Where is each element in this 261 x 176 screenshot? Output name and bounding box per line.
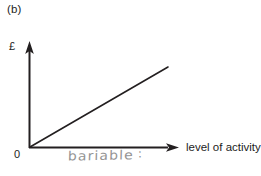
handwritten-annotation: bariable: <box>68 145 143 166</box>
variable-cost-line <box>30 67 168 147</box>
handwritten-annotation-text: bariable <box>68 146 134 164</box>
handwritten-annotation-mark: : <box>138 144 144 162</box>
cost-behaviour-figure: (b) £ 0 level of activity bariable: <box>0 0 261 176</box>
